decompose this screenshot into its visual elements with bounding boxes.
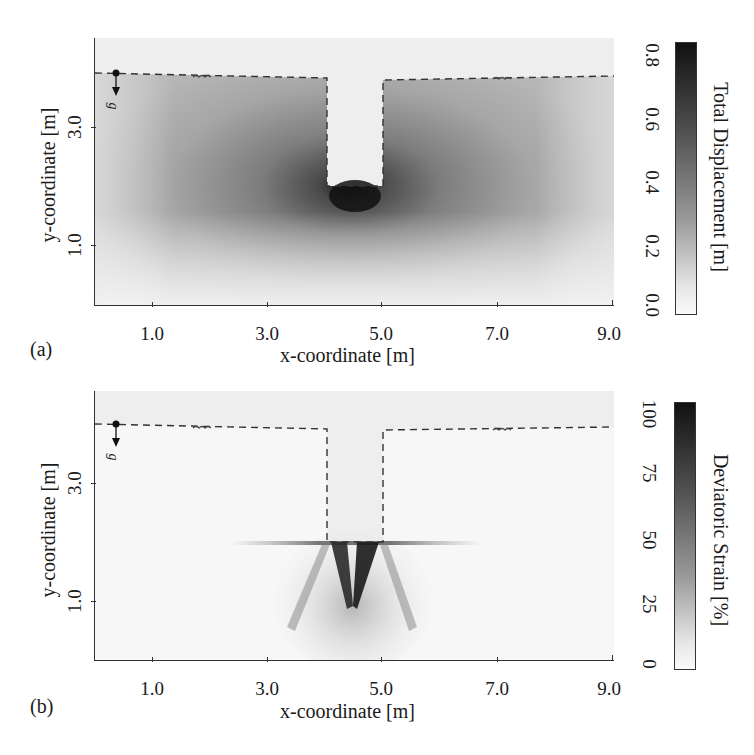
gravity-symbol: g	[105, 103, 121, 110]
x-tick-label: 5.0	[369, 324, 393, 343]
x-tick-label: 1.0	[140, 324, 164, 343]
plot-area-a: g	[94, 38, 614, 306]
strain-field	[95, 391, 614, 660]
colorbar-tick-label: 100	[638, 400, 660, 429]
colorbar-tick-label: 0.8	[641, 43, 663, 67]
colorbar-tick-label: 0.2	[641, 234, 663, 258]
colorbar-title: Total Displacement [m]	[709, 82, 732, 272]
colorbar-title: Deviatoric Strain [%]	[709, 454, 732, 626]
panel-label-b: (b)	[30, 695, 53, 718]
y-tick-label: 3.0	[65, 115, 84, 139]
x-tick-label: 9.0	[597, 679, 621, 698]
colorbar-tick-label: 50	[638, 531, 660, 550]
colorbar-tick-label: 0.6	[641, 107, 663, 131]
x-tick-label: 7.0	[485, 324, 509, 343]
plot-area-b: g	[94, 391, 614, 661]
x-tick-label: 5.0	[369, 679, 393, 698]
x-tick-label: 9.0	[597, 324, 621, 343]
colorbar-tick-label: 0.0	[641, 293, 663, 317]
gravity-arrow-icon	[109, 420, 123, 468]
x-axis-title: x-coordinate [m]	[280, 700, 415, 723]
x-axis-title: x-coordinate [m]	[280, 344, 415, 367]
x-tick-label: 3.0	[255, 679, 279, 698]
gravity-symbol: g	[105, 454, 121, 461]
y-tick-label: 3.0	[65, 471, 84, 495]
displacement-field	[95, 38, 614, 305]
x-tick-label: 1.0	[140, 679, 164, 698]
y-axis-title: y-coordinate [m]	[37, 108, 60, 243]
colorbar-tick-label: 0.4	[641, 170, 663, 194]
colorbar-tick-label: 25	[638, 595, 660, 614]
colorbar-tick-label: 0	[638, 659, 660, 669]
x-tick-label: 7.0	[485, 679, 509, 698]
x-tick-label: 3.0	[255, 324, 279, 343]
gravity-arrow-icon	[109, 69, 123, 117]
y-axis-title: y-coordinate [m]	[37, 463, 60, 598]
panel-label-a: (a)	[30, 338, 52, 361]
y-tick-label: 1.0	[65, 233, 84, 257]
y-tick-label: 1.0	[65, 589, 84, 613]
colorbar-tick-label: 75	[638, 464, 660, 483]
